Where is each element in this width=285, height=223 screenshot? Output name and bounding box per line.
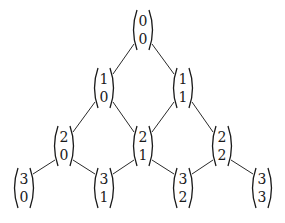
edge-line xyxy=(152,102,174,132)
left-paren xyxy=(213,126,217,166)
left-paren xyxy=(95,168,99,208)
left-paren xyxy=(55,126,59,166)
binomial-bottom: 0 xyxy=(139,31,148,47)
binomial-node: 33 xyxy=(253,168,272,208)
right-paren xyxy=(189,168,193,208)
edge-line xyxy=(113,160,134,174)
binomial-bottom: 0 xyxy=(20,189,29,205)
binomial-bottom: 1 xyxy=(179,89,188,105)
binomial-node: 30 xyxy=(15,168,34,208)
binomial-bottom: 0 xyxy=(60,147,69,163)
edge-line xyxy=(152,160,174,174)
edge-line xyxy=(113,44,134,74)
left-paren xyxy=(134,126,138,166)
edge-line xyxy=(231,160,253,174)
binomial-top: 0 xyxy=(139,13,148,29)
edge-line xyxy=(73,160,95,174)
right-paren xyxy=(30,168,34,208)
edge-line xyxy=(192,102,213,132)
binomial-node: 20 xyxy=(55,126,74,166)
left-paren xyxy=(134,10,138,50)
binomial-bottom: 1 xyxy=(100,189,109,205)
binomial-node: 11 xyxy=(174,68,193,108)
left-paren xyxy=(253,168,257,208)
right-paren xyxy=(110,68,114,108)
right-paren xyxy=(268,168,272,208)
binomial-node: 10 xyxy=(95,68,114,108)
edge-line xyxy=(73,102,95,132)
binomial-top: 2 xyxy=(60,129,69,145)
nodes: 00101120212230313233 xyxy=(15,10,272,208)
right-paren xyxy=(228,126,232,166)
edge-line xyxy=(33,160,55,174)
left-paren xyxy=(95,68,99,108)
binomial-top: 3 xyxy=(100,171,109,187)
binomial-node: 21 xyxy=(134,126,153,166)
left-paren xyxy=(15,168,19,208)
binomial-bottom: 2 xyxy=(218,147,227,163)
binomial-bottom: 1 xyxy=(139,147,148,163)
binomial-node: 22 xyxy=(213,126,232,166)
left-paren xyxy=(174,168,178,208)
right-paren xyxy=(110,168,114,208)
pascal-triangle-diagram: 00101120212230313233 xyxy=(0,0,285,223)
right-paren xyxy=(149,126,153,166)
binomial-top: 2 xyxy=(139,129,148,145)
binomial-bottom: 0 xyxy=(100,89,109,105)
binomial-top: 1 xyxy=(100,71,109,87)
left-paren xyxy=(174,68,178,108)
binomial-top: 1 xyxy=(179,71,188,87)
edge-line xyxy=(192,160,213,174)
binomial-bottom: 2 xyxy=(179,189,188,205)
right-paren xyxy=(70,126,74,166)
binomial-top: 3 xyxy=(258,171,267,187)
binomial-node: 00 xyxy=(134,10,153,50)
edge-line xyxy=(152,44,174,74)
binomial-node: 31 xyxy=(95,168,114,208)
binomial-top: 2 xyxy=(218,129,227,145)
binomial-bottom: 3 xyxy=(258,189,267,205)
right-paren xyxy=(149,10,153,50)
binomial-top: 3 xyxy=(179,171,188,187)
right-paren xyxy=(189,68,193,108)
binomial-top: 3 xyxy=(20,171,29,187)
binomial-node: 32 xyxy=(174,168,193,208)
edge-line xyxy=(113,102,134,132)
